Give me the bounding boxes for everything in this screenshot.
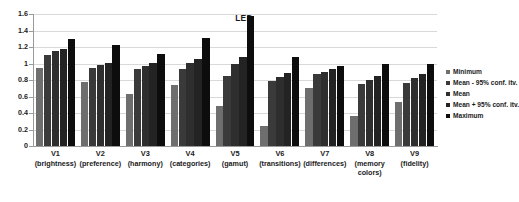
bar xyxy=(395,102,402,146)
bar xyxy=(97,65,104,146)
legend-label: Mean + 95% conf. itv. xyxy=(453,101,519,108)
legend-swatch-icon xyxy=(446,81,450,85)
bar xyxy=(81,82,88,146)
bar xyxy=(202,38,209,146)
bar xyxy=(149,63,156,146)
x-axis-label-main: V2 xyxy=(96,149,105,158)
bar-group-v6 xyxy=(257,14,302,146)
bar xyxy=(194,59,201,146)
x-axis-line xyxy=(33,146,438,147)
x-axis-label-v5: V5(gamut) xyxy=(213,149,258,197)
x-axis-label-sub: (memory colors) xyxy=(347,159,392,178)
x-axis-label-sub: (differences) xyxy=(302,159,347,169)
bar xyxy=(223,76,230,146)
legend-swatch-icon xyxy=(446,103,450,107)
bar-group-v4 xyxy=(168,14,213,146)
bar xyxy=(68,39,75,146)
x-axis-label-v1: V1(brightness) xyxy=(33,149,78,197)
legend-label: Maximum xyxy=(453,112,483,119)
bar xyxy=(89,68,96,146)
bar xyxy=(284,73,291,146)
bar-group-v5 xyxy=(213,14,258,146)
x-axis-label-sub: (preference) xyxy=(78,159,123,169)
bar xyxy=(329,69,336,146)
legend-label: Mean - 95% conf. itv. xyxy=(453,79,517,86)
bar xyxy=(403,83,410,146)
bar xyxy=(52,51,59,146)
y-tick-label: 1.6 xyxy=(2,10,28,18)
y-tick-label-wrap: 0.8 xyxy=(0,76,28,84)
y-tick-label: 0 xyxy=(2,142,28,150)
x-axis-label-sub: (harmony) xyxy=(123,159,168,169)
bar xyxy=(374,76,381,146)
bar xyxy=(313,74,320,146)
y-tick-label: 0.8 xyxy=(2,76,28,84)
x-axis-label-main: V1 xyxy=(51,149,60,158)
x-axis-label-main: V3 xyxy=(141,149,150,158)
bar xyxy=(231,64,238,147)
bar xyxy=(358,84,365,146)
x-axis-label-v9: V9(fidelity) xyxy=(392,149,437,197)
x-axis-label-v3: V3(harmony) xyxy=(123,149,168,197)
y-tick-label-wrap: 1.6 xyxy=(0,10,28,18)
bar xyxy=(350,116,357,146)
bar xyxy=(126,94,133,146)
legend-item[interactable]: Mean + 95% conf. itv. xyxy=(446,99,488,110)
bar-group-v8 xyxy=(347,14,392,146)
bar xyxy=(321,72,328,146)
bar xyxy=(216,106,223,146)
x-axis-label-main: V4 xyxy=(186,149,195,158)
y-tick-label: 0.6 xyxy=(2,93,28,101)
x-axis-label-main: V7 xyxy=(320,149,329,158)
bar xyxy=(134,69,141,146)
bar xyxy=(419,74,426,146)
x-axis-label-main: V9 xyxy=(410,149,419,158)
bar xyxy=(179,69,186,146)
legend-swatch-icon xyxy=(446,114,450,118)
bar xyxy=(186,63,193,146)
y-tick-label-wrap: 0.4 xyxy=(0,109,28,117)
bar xyxy=(171,85,178,146)
bar xyxy=(276,77,283,146)
legend-swatch-icon xyxy=(446,70,450,74)
bar xyxy=(427,64,434,147)
bar xyxy=(112,45,119,146)
legend-item[interactable]: Minimum xyxy=(446,66,488,77)
x-axis-label-main: V5 xyxy=(230,149,239,158)
bar xyxy=(305,88,312,146)
legend-item[interactable]: Mean - 95% conf. itv. xyxy=(446,77,488,88)
x-axis-label-sub: (gamut) xyxy=(213,159,258,169)
bar xyxy=(239,57,246,146)
bar xyxy=(142,66,149,146)
chart-legend: MinimumMean - 95% conf. itv.MeanMean + 9… xyxy=(446,66,488,121)
legend-label: Mean xyxy=(453,90,470,97)
y-tick-label: 0.2 xyxy=(2,126,28,134)
x-axis-label-sub: (categories) xyxy=(168,159,213,169)
y-tick-label-wrap: 1.2 xyxy=(0,43,28,51)
legend-label: Minimum xyxy=(453,68,482,75)
bar xyxy=(260,126,267,146)
bar xyxy=(247,16,254,146)
legend-swatch-icon xyxy=(446,92,450,96)
x-axis-labels: V1(brightness)V2(preference)V3(harmony)V… xyxy=(33,149,437,197)
bar xyxy=(268,81,275,146)
y-tick-label-wrap: 0 xyxy=(0,142,28,150)
y-tick-label: 1.2 xyxy=(2,43,28,51)
legend-item[interactable]: Maximum xyxy=(446,110,488,121)
x-axis-label-v6: V6(transitions) xyxy=(257,149,302,197)
legend-item[interactable]: Mean xyxy=(446,88,488,99)
bar-group-v9 xyxy=(392,14,437,146)
x-axis-label-sub: (brightness) xyxy=(33,159,78,169)
x-axis-label-main: V6 xyxy=(275,149,284,158)
bar-group-v2 xyxy=(78,14,123,146)
x-axis-label-sub: (fidelity) xyxy=(392,159,437,169)
bar xyxy=(44,55,51,146)
y-tick-label-wrap: 1.4 xyxy=(0,27,28,35)
bar xyxy=(36,68,43,146)
x-axis-label-sub: (transitions) xyxy=(257,159,302,169)
bar-group-v7 xyxy=(302,14,347,146)
x-axis-label-v4: V4(categories) xyxy=(168,149,213,197)
bar xyxy=(337,66,344,146)
bar xyxy=(292,57,299,146)
